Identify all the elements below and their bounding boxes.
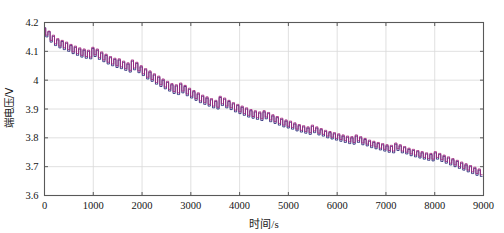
y-axis-tick-labels: 3.63.73.83.944.14.2	[25, 17, 39, 201]
x-tick-label: 7000	[375, 200, 396, 211]
grid-lines	[45, 23, 484, 196]
x-axis-tick-labels: 0100020003000400050006000700080009000	[42, 200, 494, 211]
y-tick-label: 3.7	[25, 161, 38, 172]
y-tick-label: 4.2	[25, 17, 38, 28]
y-tick-label: 4	[33, 75, 39, 86]
y-tick-label: 4.1	[25, 46, 38, 57]
x-tick-label: 2000	[132, 200, 153, 211]
y-axis-label: 端电压/V	[3, 87, 15, 129]
x-tick-label: 5000	[278, 200, 299, 211]
x-tick-label: 6000	[327, 200, 348, 211]
series-line-estimated	[45, 28, 483, 174]
chart-figure: 0100020003000400050006000700080009000 3.…	[0, 0, 504, 233]
voltage-vs-time-plot: 0100020003000400050006000700080009000 3.…	[0, 0, 504, 233]
x-tick-label: 8000	[424, 200, 445, 211]
x-tick-label: 4000	[229, 200, 250, 211]
y-tick-label: 3.8	[25, 132, 38, 143]
x-tick-label: 0	[42, 200, 47, 211]
data-series-layer	[45, 28, 483, 177]
y-tick-label: 3.9	[25, 104, 38, 115]
x-tick-label: 9000	[473, 200, 494, 211]
y-tick-label: 3.6	[25, 190, 38, 201]
x-tick-label: 3000	[180, 200, 201, 211]
x-tick-label: 1000	[83, 200, 104, 211]
x-axis-label: 时间/s	[249, 218, 278, 230]
